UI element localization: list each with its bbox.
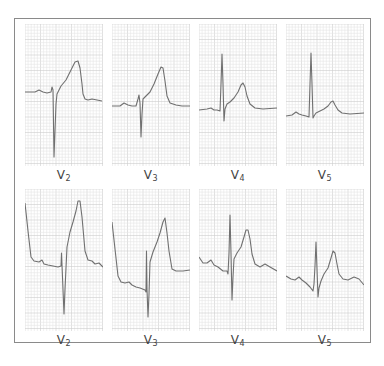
lead-number: 5 xyxy=(327,339,333,348)
ecg-panel-v4-row2 xyxy=(199,189,277,331)
lead-letter: V xyxy=(57,333,66,347)
ecg-trace xyxy=(199,215,277,300)
lead-letter: V xyxy=(231,168,240,182)
ecg-grid xyxy=(112,24,190,166)
lead-letter: V xyxy=(318,333,327,347)
ecg-panel-v3-row2 xyxy=(112,189,190,331)
lead-label: V2 xyxy=(25,168,103,183)
ecg-panel-v2-row1 xyxy=(25,24,103,166)
ecg-grid xyxy=(286,189,364,331)
ecg-grid xyxy=(112,189,190,331)
ecg-panel-v4-row1 xyxy=(199,24,277,166)
ecg-trace xyxy=(286,53,364,118)
ecg-grid xyxy=(199,24,277,166)
ecg-panel-v5-row2 xyxy=(286,189,364,331)
lead-number: 5 xyxy=(327,174,333,183)
lead-label: V3 xyxy=(112,168,190,183)
lead-letter: V xyxy=(57,168,66,182)
ecg-trace xyxy=(112,218,190,317)
ecg-trace xyxy=(25,61,102,157)
lead-label: V4 xyxy=(199,168,277,183)
ecg-grid xyxy=(25,24,103,166)
lead-letter: V xyxy=(144,168,153,182)
ecg-grid xyxy=(286,24,364,166)
lead-letter: V xyxy=(144,333,153,347)
ecg-grid xyxy=(25,189,103,331)
lead-letter: V xyxy=(318,168,327,182)
lead-number: 3 xyxy=(153,174,159,183)
lead-label: V4 xyxy=(199,333,277,348)
lead-label: V2 xyxy=(25,333,103,348)
lead-number: 2 xyxy=(66,174,72,183)
lead-number: 4 xyxy=(240,174,246,183)
lead-label: V3 xyxy=(112,333,190,348)
lead-number: 4 xyxy=(240,339,246,348)
ecg-panel-v3-row1 xyxy=(112,24,190,166)
lead-number: 3 xyxy=(153,339,159,348)
ecg-trace xyxy=(25,201,103,314)
lead-label: V5 xyxy=(286,333,364,348)
lead-label: V5 xyxy=(286,168,364,183)
lead-number: 2 xyxy=(66,339,72,348)
ecg-panel-v5-row1 xyxy=(286,24,364,166)
ecg-grid xyxy=(199,189,277,331)
ecg-panel-v2-row2 xyxy=(25,189,103,331)
lead-letter: V xyxy=(231,333,240,347)
